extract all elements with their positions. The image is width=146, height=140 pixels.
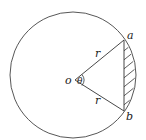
circle [10, 12, 136, 138]
label-r-bottom: r [95, 94, 101, 107]
label-b: b [126, 110, 133, 123]
label-theta: θ [77, 76, 83, 86]
label-r-top: r [95, 47, 101, 60]
radius-oa [75, 40, 124, 80]
label-o: o [65, 74, 72, 87]
circle-segment-diagram: o θ r r a b [0, 0, 146, 140]
hatched-segment [120, 38, 140, 117]
label-a: a [127, 29, 134, 42]
